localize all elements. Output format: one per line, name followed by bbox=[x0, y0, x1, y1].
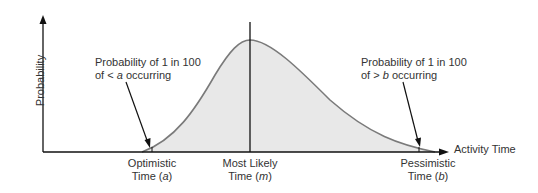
right-annotation-arrowhead-icon bbox=[415, 138, 421, 148]
right-annotation-line1: Probability of 1 in 100 bbox=[361, 56, 467, 69]
right-annotation: Probability of 1 in 100 of > b occurring bbox=[361, 56, 467, 82]
right-annotation-arrow bbox=[403, 82, 418, 141]
y-axis-label: Probability bbox=[34, 51, 47, 111]
optimistic-time-label: Optimistic Time (a) bbox=[112, 157, 192, 183]
right-annotation-line2: of > b occurring bbox=[361, 69, 467, 82]
left-annotation-arrowhead-icon bbox=[145, 138, 151, 148]
most-likely-time-label: Most Likely Time (m) bbox=[210, 157, 290, 183]
y-axis-arrow-icon bbox=[40, 15, 47, 24]
left-annotation-line2: of < a occurring bbox=[95, 69, 201, 82]
pessimistic-time-label: Pessimistic Time (b) bbox=[388, 157, 468, 183]
left-annotation: Probability of 1 in 100 of < a occurring bbox=[95, 56, 201, 82]
x-axis-arrow-icon bbox=[439, 149, 449, 156]
left-annotation-arrow bbox=[126, 82, 148, 143]
x-axis-label: Activity Time bbox=[454, 143, 516, 156]
left-annotation-line1: Probability of 1 in 100 bbox=[95, 56, 201, 69]
